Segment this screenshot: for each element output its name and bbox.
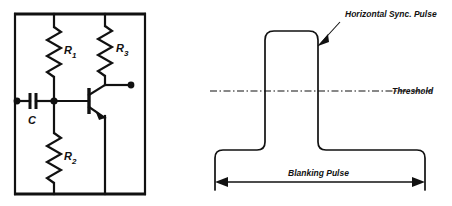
r3-label: R [116,42,124,54]
blanking-arrow-left [215,177,228,187]
blanking-arrow-right [412,177,425,187]
sync-pulse-leader-arrow [318,34,329,46]
blanking-pulse-label: Blanking Pulse [288,168,349,178]
r1-label: R [64,44,72,56]
threshold-label: Threshold [392,86,434,96]
waveform-panel: Threshold Horizontal Sync. Pulse Blankin… [200,0,452,206]
output-terminal-dot[interactable] [128,82,135,89]
transistor-emitter-arrow [95,110,105,120]
sync-pulse-label: Horizontal Sync. Pulse [345,9,437,19]
transistor-collector-lead [89,85,105,95]
figure-root: R 1 R 3 R 2 C [0,0,452,206]
circuit-diagram-panel: R 1 R 3 R 2 C [0,0,226,206]
r1-resistor-body [47,27,61,77]
waveform-svg: Threshold Horizontal Sync. Pulse Blankin… [200,0,452,206]
capacitor-label: C [28,114,37,126]
r3-label-subscript: 3 [124,49,129,58]
r1-label-subscript: 1 [72,51,77,60]
r2-label-subscript: 2 [71,157,77,166]
composite-sync-waveform [215,31,425,190]
circuit-svg: R 1 R 3 R 2 C [0,0,226,206]
r2-resistor-body [47,133,61,183]
r3-resistor-body [98,26,112,76]
r2-label: R [64,150,72,162]
